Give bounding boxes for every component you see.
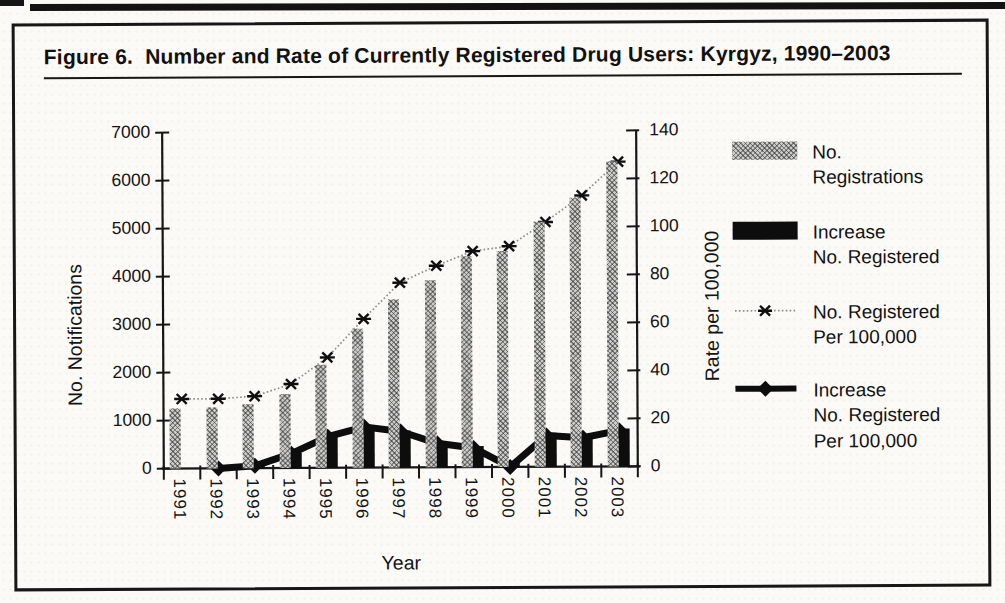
bar-registrations-1995 <box>315 365 327 468</box>
legend-item-rate: No. Registered Per 100,000 <box>733 299 940 351</box>
star-marker <box>174 394 189 404</box>
left-tick-label: 6000 <box>98 172 150 190</box>
legend-label: No. Registrations <box>812 139 923 190</box>
bar-registrations-1991 <box>170 409 181 469</box>
scan-top-rule <box>30 2 1005 11</box>
year-label: 1993 <box>244 478 261 534</box>
star-marker <box>465 246 480 256</box>
legend-label: Increase No. Registered <box>813 219 940 270</box>
right-tick-label: 120 <box>649 169 701 187</box>
bar-increase-1996 <box>363 425 374 467</box>
star-marker <box>429 261 444 271</box>
bar-increase-1999 <box>473 446 484 467</box>
star-marker <box>356 314 371 324</box>
bar-registrations-1996 <box>352 328 364 467</box>
bar-increase-2001 <box>545 433 556 467</box>
scan-corner-mark <box>0 0 24 6</box>
bar-increase-1998 <box>436 445 447 468</box>
diamond-line-swatch-icon <box>733 380 798 402</box>
year-label: 1994 <box>280 478 297 534</box>
bar-increase-1997 <box>400 430 411 467</box>
legend-label: Increase No. Registered Per 100,000 <box>813 377 940 453</box>
gray-bar-swatch-icon <box>732 142 797 160</box>
right-tick-label: 20 <box>651 409 703 427</box>
star-marker <box>247 391 262 401</box>
chart-canvas <box>162 130 638 468</box>
left-tick-label: 0 <box>100 460 152 478</box>
right-tick-label: 100 <box>650 217 702 235</box>
bar-registrations-2002 <box>570 198 582 467</box>
legend-item-registrations: No. Registrations <box>732 139 923 190</box>
year-label: 2000 <box>499 477 516 533</box>
right-tick-label: 0 <box>651 457 703 475</box>
year-label: 1995 <box>317 478 334 534</box>
right-axis-title: Rate per 100,000 <box>700 231 724 382</box>
year-label: 1991 <box>171 479 188 535</box>
left-tick-label: 7000 <box>98 124 150 142</box>
year-label: 1998 <box>426 477 443 533</box>
right-tick-label: 60 <box>650 313 702 331</box>
left-tick-label: 3000 <box>99 316 151 334</box>
right-tick-label: 40 <box>650 361 702 379</box>
bar-registrations-1993 <box>243 404 254 468</box>
left-tick-label: 4000 <box>99 268 151 286</box>
figure-title: Figure 6. Number and Rate of Currently R… <box>44 41 962 79</box>
right-tick-label: 140 <box>649 121 701 139</box>
left-tick-label: 5000 <box>99 220 151 238</box>
year-label: 1992 <box>208 478 225 534</box>
bar-increase-1995 <box>327 436 338 468</box>
bar-registrations-2000 <box>497 251 509 467</box>
left-axis-title: No. Notifications <box>63 264 87 406</box>
bar-registrations-2001 <box>533 222 545 467</box>
figure-frame: Figure 6. Number and Rate of Currently R… <box>12 19 992 592</box>
year-label: 2001 <box>536 477 553 533</box>
bar-registrations-1999 <box>461 256 473 467</box>
year-label: 1999 <box>463 477 480 533</box>
bar-increase-2000 <box>509 463 520 467</box>
year-label: 1996 <box>353 478 370 534</box>
bar-registrations-1998 <box>424 280 436 467</box>
bar-registrations-1997 <box>388 300 400 468</box>
legend-item-increase-rate: Increase No. Registered Per 100,000 <box>733 377 940 454</box>
bar-increase-2002 <box>582 439 593 467</box>
left-tick-label: 2000 <box>99 364 151 382</box>
year-label: 1997 <box>390 477 407 533</box>
star-line-swatch-icon <box>733 302 798 324</box>
star-marker <box>211 394 226 404</box>
right-tick-label: 80 <box>650 265 702 283</box>
bar-registrations-1992 <box>206 407 217 468</box>
bar-increase-1992 <box>217 467 228 468</box>
x-axis-title: Year <box>382 551 422 574</box>
star-marker <box>320 352 335 362</box>
bar-increase-1994 <box>290 453 301 468</box>
bar-increase-2003 <box>618 428 629 466</box>
left-tick-label: 1000 <box>100 412 152 430</box>
star-marker <box>392 278 407 288</box>
year-label: 2003 <box>609 476 626 532</box>
bar-registrations-1994 <box>279 394 290 468</box>
black-bar-swatch-icon <box>733 222 798 240</box>
legend-label: No. Registered Per 100,000 <box>813 299 940 350</box>
legend: No. Registrations Increase No. Registere… <box>732 139 982 140</box>
plot-area: No. Notifications Rate per 100,000 Year … <box>162 130 638 468</box>
bar-increase-1993 <box>254 465 265 468</box>
bar-registrations-2003 <box>606 162 618 467</box>
legend-item-increase-registered: Increase No. Registered <box>733 219 940 271</box>
year-label: 2002 <box>572 477 589 533</box>
